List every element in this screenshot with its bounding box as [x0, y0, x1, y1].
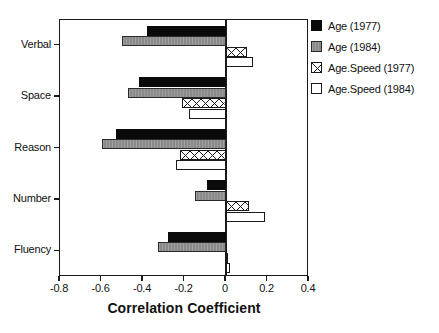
x-tick-0 [58, 276, 60, 281]
bar-number-series-2 [226, 201, 249, 211]
bar-reason-series-3 [176, 160, 226, 170]
bar-fluency-series-3 [226, 263, 230, 273]
legend-swatch-icon-0 [311, 20, 322, 31]
legend-label-2: Age.Speed (1977) [328, 62, 414, 74]
y-tick-4 [54, 250, 59, 252]
bar-space-series-1 [128, 88, 226, 98]
y-tick-label-fluency: Fluency [0, 243, 51, 255]
legend-swatch-icon-2 [311, 62, 322, 73]
y-tick-label-reason: Reason [0, 141, 51, 153]
x-tick-4 [224, 276, 226, 281]
bar-verbal-series-2 [226, 47, 247, 57]
x-tick-6 [307, 276, 309, 281]
y-tick-1 [54, 95, 59, 97]
bar-number-series-0 [207, 180, 226, 190]
bar-reason-series-0 [116, 129, 226, 139]
bar-reason-series-2 [180, 150, 226, 160]
x-axis-title: Correlation Coefficient [0, 300, 368, 316]
bar-fluency-series-1 [158, 242, 226, 252]
legend-item-2[interactable]: Age.Speed (1977) [311, 59, 414, 76]
y-tick-0 [54, 44, 59, 46]
legend-label-3: Age.Speed (1984) [328, 83, 414, 95]
y-tick-3 [54, 198, 59, 200]
legend-item-3[interactable]: Age.Speed (1984) [311, 80, 414, 97]
y-tick-label-verbal: Verbal [0, 38, 51, 50]
legend-item-1[interactable]: Age (1984) [311, 38, 414, 55]
bar-fluency-series-2 [226, 253, 228, 263]
bar-number-series-1 [195, 191, 226, 201]
x-tick-2 [141, 276, 143, 281]
legend-label-0: Age (1977) [328, 20, 380, 32]
bar-verbal-series-3 [226, 57, 253, 67]
bar-space-series-0 [139, 77, 226, 87]
plot-area [59, 19, 308, 276]
x-tick-label-6: 0.4 [278, 282, 338, 294]
bar-verbal-series-1 [122, 36, 226, 46]
bar-reason-series-1 [102, 139, 227, 149]
legend-label-1: Age (1984) [328, 41, 380, 53]
legend-swatch-icon-1 [311, 41, 322, 52]
legend-swatch-icon-3 [311, 83, 322, 94]
bar-space-series-3 [189, 109, 226, 119]
x-tick-5 [266, 276, 268, 281]
legend-item-0[interactable]: Age (1977) [311, 17, 414, 34]
chart-legend: Age (1977)Age (1984)Age.Speed (1977)Age.… [311, 17, 414, 101]
bar-space-series-2 [182, 98, 226, 108]
x-tick-1 [100, 276, 102, 281]
bar-number-series-3 [226, 212, 265, 222]
bar-verbal-series-0 [147, 26, 226, 36]
y-tick-label-number: Number [0, 192, 51, 204]
bar-fluency-series-0 [168, 232, 226, 242]
x-tick-3 [183, 276, 185, 281]
y-tick-label-space: Space [0, 89, 51, 101]
chart-figure: -0.8-0.6-0.4-0.200.20.4VerbalSpaceReason… [0, 0, 439, 333]
y-tick-2 [54, 147, 59, 149]
